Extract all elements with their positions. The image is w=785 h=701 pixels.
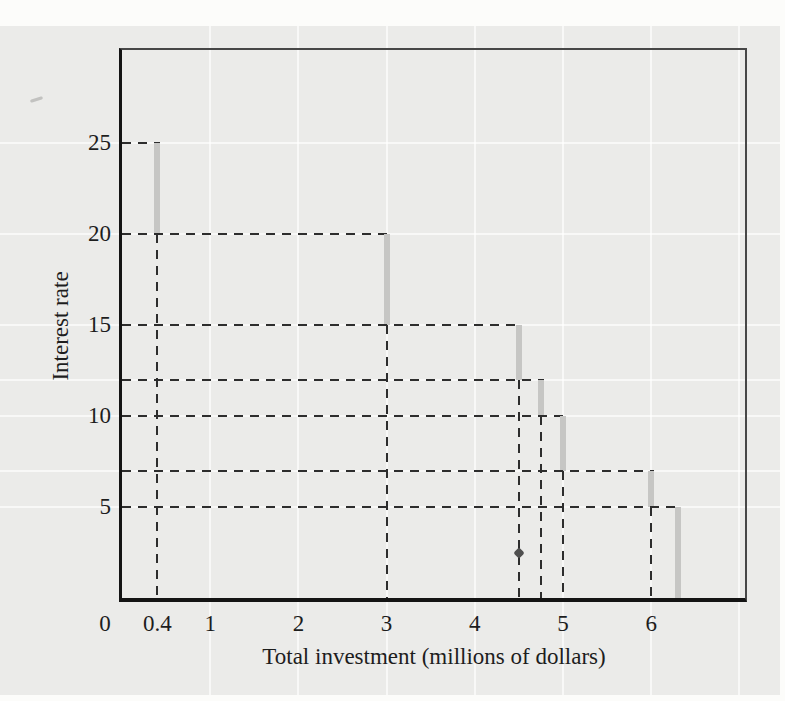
- ink-spot-artifact: [513, 548, 524, 559]
- x-tick-label: 4: [469, 612, 481, 635]
- y-tick-label: 5: [59, 495, 111, 519]
- dashed-guide-vertical: [518, 380, 520, 598]
- step-bar: [516, 325, 522, 380]
- step-bar: [538, 380, 544, 416]
- chart-plot-area: [119, 48, 747, 602]
- x-tick-label: 5: [557, 612, 569, 635]
- y-axis-title: Interest rate: [48, 271, 74, 380]
- step-bar: [154, 143, 160, 234]
- step-bar: [675, 507, 681, 598]
- dashed-guide-horizontal: [122, 506, 681, 508]
- y-tick-label: 25: [59, 131, 111, 155]
- dashed-guide-horizontal: [122, 415, 566, 417]
- dashed-guide-horizontal: [122, 470, 654, 472]
- x-tick-label: 1: [204, 612, 216, 635]
- dashed-guide-vertical: [562, 471, 564, 598]
- x-tick-label: 0.4: [143, 612, 172, 635]
- y-tick-label: 10: [59, 404, 111, 428]
- y-tick-label: 20: [59, 222, 111, 246]
- step-bar: [384, 234, 390, 325]
- step-bar: [560, 416, 566, 471]
- x-tick-label: 0: [99, 612, 111, 635]
- dashed-guide-horizontal: [122, 324, 522, 326]
- dashed-guide-horizontal: [122, 233, 390, 235]
- x-tick-label: 2: [293, 612, 305, 635]
- dashed-guide-vertical: [386, 325, 388, 598]
- x-axis-title: Total investment (millions of dollars): [262, 644, 605, 670]
- dashed-guide-horizontal: [122, 379, 544, 381]
- x-tick-label: 3: [381, 612, 393, 635]
- dashed-guide-vertical: [650, 507, 652, 598]
- step-bar: [648, 471, 654, 507]
- scanned-page: { "figure": { "x_axis_title": "Total inv…: [0, 0, 785, 701]
- x-tick-label: 6: [645, 612, 657, 635]
